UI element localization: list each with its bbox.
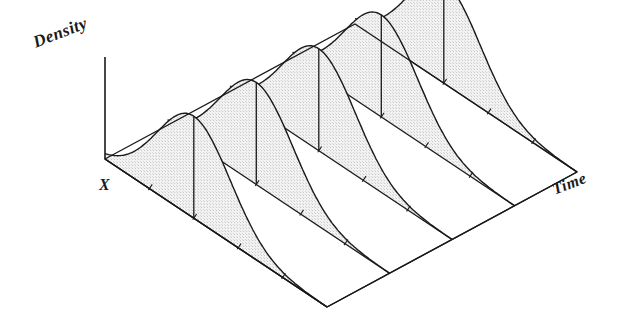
plot-scene xyxy=(105,0,577,307)
time-axis-line xyxy=(327,172,577,307)
density-over-time-figure: Density X Time xyxy=(0,0,643,326)
figure-canvas xyxy=(0,0,643,326)
x-axis-label: X xyxy=(99,176,110,194)
